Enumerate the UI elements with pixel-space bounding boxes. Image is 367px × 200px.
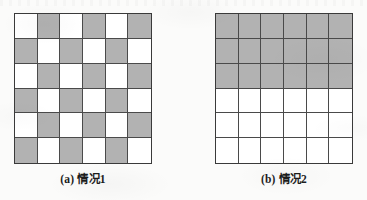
grid-cell (106, 39, 129, 64)
grid-cell (83, 14, 106, 39)
grid-cell (38, 14, 61, 39)
caption-situation-2: (b) 情况2 (215, 170, 353, 186)
grid-cell (128, 14, 151, 39)
grid-cell (239, 138, 262, 163)
grid-cell (106, 14, 129, 39)
grid-cell (15, 89, 38, 114)
grid-cell (284, 64, 307, 89)
grid-cell (128, 39, 151, 64)
grid-cell (128, 89, 151, 114)
grid-cell (38, 138, 61, 163)
grid-cell (60, 113, 83, 138)
grid-cell (239, 113, 262, 138)
grid-cell (261, 138, 284, 163)
grid-cell (261, 89, 284, 114)
grid-cell (15, 138, 38, 163)
grid-cell (239, 39, 262, 64)
grid-cell (38, 64, 61, 89)
grid-cell (60, 138, 83, 163)
grid-cell (284, 89, 307, 114)
grid-cell (261, 39, 284, 64)
grid-cell (83, 138, 106, 163)
grid-cell (329, 39, 352, 64)
grid-cell (307, 64, 330, 89)
grid-cell (329, 64, 352, 89)
grid-cell (261, 14, 284, 39)
grid-cell (60, 14, 83, 39)
grid-cell (60, 64, 83, 89)
grid-cell (284, 14, 307, 39)
grid-cell (83, 89, 106, 114)
grid-cell (261, 64, 284, 89)
grid-cell (128, 113, 151, 138)
grid-cell (128, 138, 151, 163)
grid-cell (128, 64, 151, 89)
grid-cell (60, 89, 83, 114)
grid-cell (284, 39, 307, 64)
grid-cell (15, 113, 38, 138)
grid-cell (239, 64, 262, 89)
grid-cell (216, 89, 239, 114)
grid-cell (83, 113, 106, 138)
caption-situation-1: (a) 情况1 (14, 170, 152, 186)
grid-cell (216, 138, 239, 163)
grid-cell (307, 113, 330, 138)
scan-edge-artifact (0, 0, 367, 6)
grid-cell (15, 39, 38, 64)
grid-situation-1 (14, 13, 152, 164)
grid-cell (239, 89, 262, 114)
grid-situation-2 (215, 13, 353, 164)
grid-cell (329, 89, 352, 114)
grid-cell (216, 64, 239, 89)
grid-cell (38, 113, 61, 138)
grid-cell (216, 39, 239, 64)
grid-cell (15, 64, 38, 89)
grid-cell (216, 14, 239, 39)
grid-cell (284, 113, 307, 138)
grid-cell (307, 14, 330, 39)
grid-cell (106, 64, 129, 89)
grid-cell (60, 39, 83, 64)
grid-cell (106, 89, 129, 114)
grid-cell (284, 138, 307, 163)
grid-cell (307, 89, 330, 114)
grid-cell (329, 113, 352, 138)
grid-cell (106, 113, 129, 138)
grid-cell (83, 39, 106, 64)
grid-cell (83, 64, 106, 89)
grid-cell (106, 138, 129, 163)
grid-cell (239, 14, 262, 39)
grid-cell (261, 113, 284, 138)
grid-cell (38, 39, 61, 64)
grid-cell (307, 138, 330, 163)
grid-cell (15, 14, 38, 39)
grid-cell (329, 138, 352, 163)
grid-cell (307, 39, 330, 64)
grid-cell (38, 89, 61, 114)
grid-cell (329, 14, 352, 39)
grid-cell (216, 113, 239, 138)
